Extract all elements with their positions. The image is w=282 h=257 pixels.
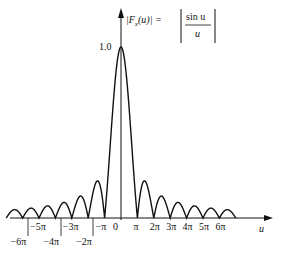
x-tick-label: 5π bbox=[199, 222, 209, 232]
sinc-chart bbox=[0, 0, 282, 257]
x-tick-label-lower: −2π bbox=[76, 237, 92, 247]
x-tick-label: 4π bbox=[183, 222, 193, 232]
formula-lhs: |Fx(u)| = bbox=[126, 14, 162, 28]
x-tick-label-lower: −6π bbox=[11, 237, 27, 247]
x-tick-label: 6π bbox=[215, 222, 225, 232]
x-tick-label: π bbox=[133, 222, 138, 232]
x-tick-label: −5π bbox=[30, 222, 46, 232]
y-axis-arrow-icon bbox=[118, 8, 124, 18]
x-tick-label: 3π bbox=[166, 222, 176, 232]
x-axis-label: u bbox=[259, 224, 264, 234]
x-axis-arrow-icon bbox=[264, 215, 273, 221]
x-tick-label: 0 bbox=[113, 222, 118, 232]
x-tick-label: −π bbox=[96, 222, 107, 232]
x-tick-label-lower: −4π bbox=[43, 237, 59, 247]
formula-denominator: u bbox=[195, 29, 200, 39]
x-tick-label: −3π bbox=[63, 222, 79, 232]
x-tick-label: 2π bbox=[150, 222, 160, 232]
y-tick-label-1: 1.0 bbox=[99, 42, 112, 52]
formula-numerator: sin u bbox=[186, 12, 205, 22]
